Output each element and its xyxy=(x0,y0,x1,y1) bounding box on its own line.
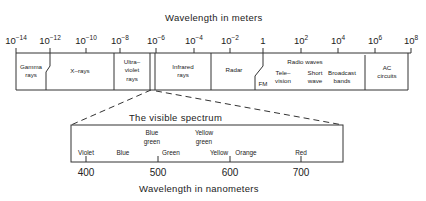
band-ultraviolet-rays: Ultra– violet rays xyxy=(124,58,141,83)
tick-label: 10−12 xyxy=(39,35,61,46)
top-axis-ticks xyxy=(16,48,411,53)
band-radio-waves: Radio waves xyxy=(287,58,322,66)
nm-tick-label: 700 xyxy=(293,168,310,178)
tick-label: 10−6 xyxy=(147,35,165,46)
band-infrared-rays: Infrared rays xyxy=(172,63,193,80)
color-red: Red xyxy=(295,149,307,158)
tick-label: 108 xyxy=(404,35,418,46)
band-fm: FM xyxy=(259,80,268,88)
color-yellow: Yellow xyxy=(210,149,228,158)
tick-label: 104 xyxy=(331,35,345,46)
visible-axis-title: Wavelength in nanometers xyxy=(139,184,259,194)
color-green: Green xyxy=(162,149,180,158)
tick-label: 10−2 xyxy=(221,35,239,46)
band-short-wave: Short wave xyxy=(308,69,323,86)
band-broadcast-bands: Broadcast bands xyxy=(328,69,356,86)
top-axis-title: Wavelength in meters xyxy=(165,13,263,23)
band-x-rays: X–rays xyxy=(70,67,89,75)
tick-label: 1 xyxy=(260,35,265,46)
tick-label: 10−8 xyxy=(111,35,129,46)
band-radar: Radar xyxy=(226,66,243,74)
spectrum-diagram-lines xyxy=(0,0,426,201)
color-yellow-green: Yellow green xyxy=(195,129,213,146)
band-gamma-rays: Gamma rays xyxy=(20,63,42,80)
nm-tick-label: 500 xyxy=(150,168,167,178)
tick-label: 10−10 xyxy=(75,35,97,46)
nm-tick-label: 400 xyxy=(78,168,95,178)
band-television: Tele– vision xyxy=(275,69,291,86)
color-orange: Orange xyxy=(235,149,256,158)
band-ac-circuits: AC circuits xyxy=(377,64,396,81)
nm-tick-label: 600 xyxy=(222,168,239,178)
tick-label: 10−14 xyxy=(5,35,27,46)
tick-label: 102 xyxy=(294,35,308,46)
tick-label: 106 xyxy=(368,35,382,46)
color-violet: Violet xyxy=(78,149,94,158)
color-blue: Blue xyxy=(117,149,130,158)
tick-label: 10−4 xyxy=(185,35,203,46)
color-blue-green: Blue green xyxy=(144,129,160,146)
visible-spectrum-title: The visible spectrum xyxy=(129,113,222,123)
